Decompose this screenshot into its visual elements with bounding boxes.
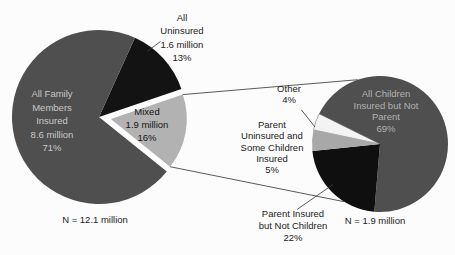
label-line: but Not Children (259, 220, 328, 232)
label-mixed: Mixed1.9 million16% (126, 105, 169, 144)
label-line: 1.6 million (160, 38, 203, 51)
label-line: 13% (160, 51, 203, 64)
label-parent-insured-not-children: Parent Insuredbut Not Children22% (259, 208, 328, 244)
label-other: Other4% (277, 84, 301, 105)
label-line: All Children (354, 88, 419, 100)
label-line: 5% (241, 164, 304, 175)
label-line: 22% (259, 232, 328, 244)
label-line: 1.9 million (126, 118, 169, 131)
label-all-children-insured-not-parent: All ChildrenInsured but NotParent69% (354, 88, 419, 134)
label-line: 71% (31, 141, 74, 155)
label-line: Uninsured (160, 25, 203, 38)
label-line: Members (31, 101, 74, 115)
label-line: Other (277, 84, 301, 95)
label-n-total-left: N = 12.1 million (62, 214, 128, 226)
leader-parent-insured-not-children (297, 185, 333, 210)
label-line: 16% (126, 131, 169, 144)
label-line: All (160, 11, 203, 24)
label-line: 69% (354, 123, 419, 135)
label-line: Parent (354, 111, 419, 123)
label-n-total-right: N = 1.9 million (345, 215, 405, 227)
label-line: Parent (241, 119, 304, 130)
label-line: All Family (31, 87, 74, 101)
connector-line-top (183, 80, 358, 95)
label-line: Uninsured and (241, 130, 304, 141)
label-line: Mixed (126, 105, 169, 118)
label-line: 4% (277, 95, 301, 106)
leader-other (302, 110, 316, 127)
label-line: Some Children (241, 141, 304, 152)
pie2-slice-parent-insured-but-not-children (312, 144, 380, 212)
label-line: Insured (241, 153, 304, 164)
label-line: 8.6 million (31, 128, 74, 142)
label-line: Insured (31, 114, 74, 128)
label-line: Insured but Not (354, 99, 419, 111)
label-all-uninsured: AllUninsured1.6 million13% (160, 11, 203, 65)
label-all-family-members-insured: All FamilyMembersInsured8.6 million71% (31, 87, 74, 155)
label-line: Parent Insured (259, 208, 328, 220)
pie-figure: All FamilyMembersInsured8.6 million71% A… (0, 0, 455, 255)
label-parent-uninsured-some-children-insured: ParentUninsured andSome ChildrenInsured5… (241, 119, 304, 175)
